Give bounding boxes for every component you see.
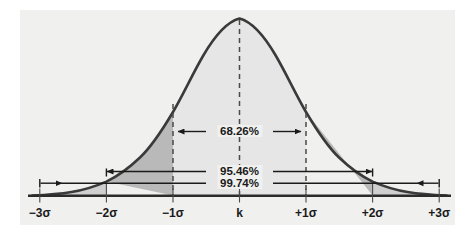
x-tick-label-plus-2-sigma: +2σ [362,206,384,220]
x-tick-label-minus-3-sigma: −3σ [29,206,51,220]
label-68-percent: 68.26% [217,125,262,137]
x-tick-label-plus-3-sigma: +3σ [428,206,450,220]
distribution-plot [0,0,473,236]
label-99-percent: 99.74% [217,177,262,189]
normal-distribution-figure: 68.26% 95.46% 99.74% −3σ −2σ −1σ k +1σ +… [0,0,473,236]
x-tick-label-minus-1-sigma: −1σ [162,206,184,220]
x-tick-label-center: k [236,206,243,220]
x-tick-label-plus-1-sigma: +1σ [295,206,317,220]
x-tick-label-minus-2-sigma: −2σ [95,206,117,220]
label-95-percent: 95.46% [217,165,262,177]
